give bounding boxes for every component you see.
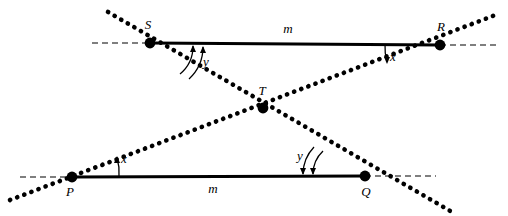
angle-arrowhead-y-q-outer	[300, 168, 306, 175]
point-label-r: R	[436, 19, 445, 34]
point-label-t: T	[258, 83, 266, 98]
angle-label-x-at-p: x	[120, 151, 127, 166]
transversal-line-p-t-r	[10, 14, 498, 200]
point-label-s: S	[145, 17, 152, 32]
line-label-m-top: m	[283, 21, 292, 36]
vertex-dot-p	[67, 172, 78, 183]
angle-label-x-at-r: x	[389, 49, 396, 64]
angle-mark-y-at-q	[300, 147, 323, 175]
point-label-p: P	[65, 184, 74, 199]
angle-label-y-at-s: y	[201, 54, 209, 69]
vertex-dot-q	[360, 171, 371, 182]
angle-arrowhead-y-s-outer	[200, 46, 206, 53]
angle-arrowhead-y-q-inner	[310, 168, 316, 175]
angle-mark-x-at-r	[384, 44, 390, 64]
parallel-line-bottom-pq	[72, 176, 365, 177]
vertex-dot-t	[258, 103, 269, 114]
angle-arrowhead-y-s-inner	[190, 45, 196, 52]
parallel-line-top-sr	[150, 43, 440, 45]
vertex-dot-r	[435, 40, 446, 51]
point-label-q: Q	[361, 184, 371, 199]
line-label-m-bottom: m	[208, 181, 217, 196]
geometry-diagram: S R T P Q m m y x x y	[0, 0, 508, 216]
angle-arrowhead-x-r	[384, 57, 390, 64]
geometry-canvas: S R T P Q m m y x x y	[0, 0, 508, 216]
angle-label-y-at-q: y	[295, 148, 303, 163]
vertex-dot-s	[145, 38, 156, 49]
